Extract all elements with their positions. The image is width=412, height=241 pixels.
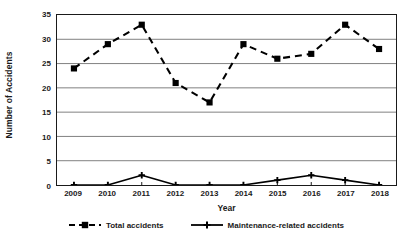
chart-legend: Total accidentsMaintenance-related accid… <box>0 220 412 230</box>
plot-area <box>56 14 397 186</box>
data-point-marker <box>274 177 280 183</box>
x-axis-tick-label: 2014 <box>235 189 253 198</box>
y-axis-title: Number of Accidents <box>0 0 18 190</box>
legend-item[interactable]: Total accidents <box>68 220 164 230</box>
legend-item[interactable]: Maintenance-related accidents <box>190 220 344 230</box>
x-axis-tick-label: 2009 <box>64 189 82 198</box>
data-point-marker <box>376 46 382 52</box>
data-point-marker <box>173 80 179 86</box>
x-axis-tick-label: 2010 <box>98 189 116 198</box>
data-point-marker <box>274 56 280 62</box>
series-maintenance-related-accidents <box>71 172 382 185</box>
y-axis-tick-label: 25 <box>20 59 51 68</box>
x-axis-tick-label: 2016 <box>303 189 321 198</box>
data-point-marker <box>139 172 145 178</box>
y-axis-tick-label: 10 <box>20 132 51 141</box>
data-point-marker <box>240 182 246 185</box>
data-point-marker <box>376 182 382 185</box>
y-axis-tick-labels: 05101520253035 <box>20 0 51 241</box>
data-point-marker <box>342 22 348 28</box>
data-point-marker <box>139 22 145 28</box>
y-axis-tick-label: 35 <box>20 10 51 19</box>
legend-label: Total accidents <box>106 221 164 230</box>
line-chart: Number of Accidents 05101520253035 20092… <box>0 0 412 241</box>
x-axis-tick-labels: 2009201020112012201320142015201620172018 <box>56 189 397 203</box>
x-axis-title: Year <box>56 203 397 213</box>
x-axis-tick-label: 2015 <box>269 189 287 198</box>
plot-svg <box>57 15 396 185</box>
data-point-marker <box>308 51 314 57</box>
y-axis-tick-label: 15 <box>20 108 51 117</box>
dashed-square-marker <box>68 220 102 230</box>
x-axis-tick-label: 2017 <box>337 189 355 198</box>
data-point-marker <box>240 41 246 47</box>
y-axis-tick-label: 5 <box>20 157 51 166</box>
data-point-marker <box>105 41 111 47</box>
data-point-marker <box>342 177 348 183</box>
data-point-marker <box>71 182 77 185</box>
y-axis-tick-label: 30 <box>20 34 51 43</box>
data-point-marker <box>206 182 212 185</box>
x-axis-tick-label: 2018 <box>371 189 389 198</box>
data-point-marker <box>105 182 111 185</box>
x-axis-tick-label: 2011 <box>133 189 150 198</box>
solid-cross-marker <box>190 220 224 230</box>
data-point-marker <box>206 99 212 105</box>
legend-label: Maintenance-related accidents <box>228 221 344 230</box>
y-axis-tick-label: 0 <box>20 182 51 191</box>
data-point-marker <box>71 65 77 71</box>
x-axis-tick-label: 2012 <box>166 189 184 198</box>
data-point-marker <box>308 172 314 178</box>
x-axis-tick-label: 2013 <box>201 189 219 198</box>
data-point-marker <box>172 182 178 185</box>
y-axis-title-label: Number of Accidents <box>4 51 14 138</box>
series-line <box>74 175 379 185</box>
y-axis-tick-label: 20 <box>20 83 51 92</box>
